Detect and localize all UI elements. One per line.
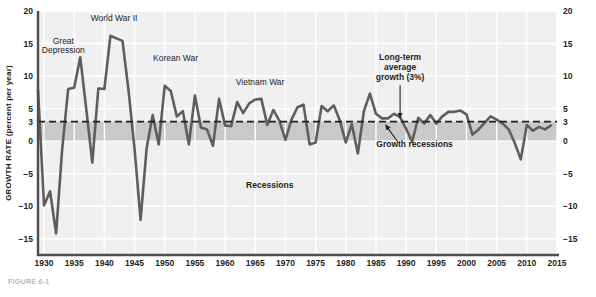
annotation-line: Growth recessions: [376, 139, 453, 149]
x-tick-label: 1930: [35, 258, 54, 268]
y-tick-label: 5: [28, 104, 33, 114]
x-tick-label: 1955: [185, 258, 204, 268]
y-tick-label-right: 10: [563, 71, 573, 81]
annotation-growth-recessions: Growth recessions: [376, 139, 453, 149]
annotation-vietnam-war: Vietnam War: [236, 77, 285, 87]
x-tick-label: 1960: [216, 258, 235, 268]
y-tick-label: −5: [23, 169, 33, 179]
x-tick-label: 1980: [336, 258, 355, 268]
annotation-line: Vietnam War: [236, 77, 285, 87]
x-axis-title: YEAR: [413, 271, 436, 272]
x-tick-label: 1945: [125, 258, 144, 268]
y-tick-label-right: 5: [563, 104, 568, 114]
chart-plot-area: 202015151010553300−5−5−10−10−15−15193019…: [0, 0, 596, 272]
figure-container: 202015151010553300−5−5−10−10−15−15193019…: [0, 0, 596, 297]
y-tick-label: 10: [24, 71, 34, 81]
x-tick-label: 1975: [306, 258, 325, 268]
y-axis-title: GROWTH RATE (percent per year): [4, 65, 13, 201]
x-tick-label: 1995: [427, 258, 446, 268]
annotation-line: Korean War: [153, 53, 198, 63]
annotation-line: Depression: [42, 45, 85, 55]
y-tick-label: 0: [28, 136, 33, 146]
annotation-line: growth (3%): [376, 72, 425, 82]
y-tick-label: −10: [19, 201, 34, 211]
y-tick-label: 20: [24, 6, 34, 16]
y-tick-label-right: 15: [563, 39, 573, 49]
annotation-line: Great: [53, 36, 75, 46]
y-tick-label-right: 20: [563, 6, 573, 16]
x-tick-label: 1950: [155, 258, 174, 268]
y-tick-label-right: −5: [563, 169, 573, 179]
y-tick-label: 15: [24, 39, 34, 49]
y-tick-label-right: −10: [563, 201, 578, 211]
growth-rate-line-chart: 202015151010553300−5−5−10−10−15−15193019…: [0, 0, 596, 272]
annotation-world-war-ii: World War II: [91, 13, 138, 23]
x-tick-label: 1935: [65, 258, 84, 268]
growth-recession-band: [38, 122, 557, 142]
annotation-recessions: Recessions: [246, 180, 294, 190]
x-tick-label: 2000: [457, 258, 476, 268]
x-tick-label: 2015: [548, 258, 567, 268]
annotation-line: World War II: [91, 13, 138, 23]
annotation-korean-war: Korean War: [153, 53, 198, 63]
y-tick-label: 3: [28, 117, 33, 127]
x-tick-label: 2010: [517, 258, 536, 268]
x-tick-label: 1965: [246, 258, 265, 268]
y-tick-label-right: 3: [563, 117, 568, 127]
annotation-line: Recessions: [246, 180, 294, 190]
x-tick-label: 1990: [397, 258, 416, 268]
y-tick-label-right: 0: [563, 136, 568, 146]
x-tick-label: 2005: [487, 258, 506, 268]
x-tick-label: 1940: [95, 258, 114, 268]
x-tick-label: 1985: [366, 258, 385, 268]
figure-caption: FIGURE 6-1: [8, 278, 50, 285]
annotation-line: average: [384, 62, 416, 72]
annotation-line: Long-term: [379, 52, 421, 62]
x-tick-label: 1970: [276, 258, 295, 268]
y-tick-label: −15: [19, 234, 34, 244]
y-tick-label-right: −15: [563, 234, 578, 244]
